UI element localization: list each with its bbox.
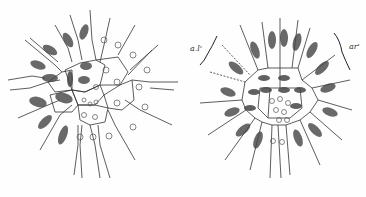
left-bracket (200, 36, 217, 65)
right-bracket (334, 33, 350, 70)
left-figure (8, 10, 178, 178)
label-ar: ar' (349, 42, 360, 51)
illustration: a.l' ar' (0, 0, 366, 197)
right-dividing-nuclei (219, 29, 339, 150)
right-figure (200, 18, 352, 178)
left-dividing-nuclei (28, 23, 92, 146)
figure-drawings (0, 0, 366, 197)
label-al: a.l' (190, 44, 202, 53)
left-resting-nuclei (77, 37, 150, 140)
